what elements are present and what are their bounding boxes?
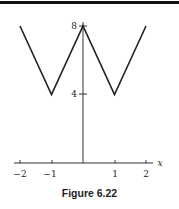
x-tick-label: −1 — [43, 169, 56, 179]
y-tick-label: 8 — [71, 21, 77, 31]
y-tick-label: 4 — [71, 89, 77, 99]
x-tick-label: 2 — [143, 169, 149, 179]
chart-plot: −2 −1 1 2 4 8 x — [0, 0, 179, 209]
x-tick-label: −2 — [13, 169, 26, 179]
figure-caption: Figure 6.22 — [0, 187, 179, 199]
x-tick-label: 1 — [112, 169, 118, 179]
x-axis-label: x — [157, 158, 162, 168]
